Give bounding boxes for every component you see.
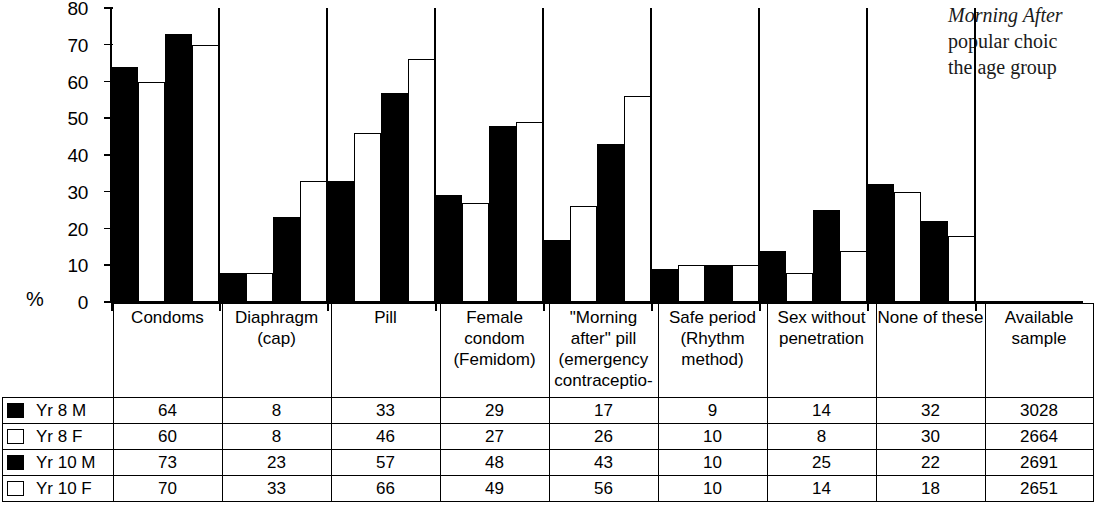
data-cell: 10 [658,424,767,450]
y-tick-label: 60 [22,73,88,92]
bar [597,144,624,302]
category-header-line: None of these [877,307,985,328]
bar [516,122,543,302]
bar [246,273,273,302]
category-header-line: Safe period [659,307,767,328]
data-cell: 27 [440,424,549,450]
table-row: Yr 10 F70336649561014182651 [3,476,1094,502]
legend-label: Yr 8 F [36,427,82,446]
category-header-line: method) [659,349,767,370]
bar [543,240,570,302]
category-header-cell: None of these [876,304,985,398]
bar [273,217,300,302]
data-cell: 43 [549,450,658,476]
legend-cell: Yr 10 F [3,476,114,502]
bar [867,184,894,302]
data-cell: 46 [331,424,440,450]
data-cell: 8 [222,398,331,424]
category-header-line: Sex without [768,307,876,328]
data-cell: 18 [876,476,985,502]
data-cell: 17 [549,398,658,424]
table-row: Yr 8 F608462726108302664 [3,424,1094,450]
data-cell: 23 [222,450,331,476]
bar [813,210,840,302]
bar [732,265,759,302]
y-tick-mark [104,44,113,46]
bar [165,34,192,302]
category-header-cell: "Morningafter" pill(emergencycontracepti… [549,304,658,398]
bar [651,269,678,302]
bar [840,251,867,302]
plot-area [111,8,1083,302]
bar [408,59,435,302]
category-header-line: Condoms [114,307,222,328]
category-header-line: (Femidom) [441,349,549,370]
bar [489,126,516,302]
bar-chart: 80706050403020100 % [0,0,1090,310]
bar [192,45,219,302]
y-tick-label: 70 [22,36,88,55]
available-sample-header-line: Available [986,307,1093,328]
bar [570,206,597,302]
category-header-line: (Rhythm [659,328,767,349]
table-row: Yr 8 M648332917914323028 [3,398,1094,424]
bar [111,67,138,302]
bar [300,181,327,302]
legend-label: Yr 10 F [36,479,92,498]
data-cell: 8 [222,424,331,450]
bar [138,82,165,303]
bar [705,265,732,302]
data-cell: 64 [113,398,222,424]
y-tick-label: 50 [22,109,88,128]
bar [894,192,921,302]
category-header-cell: Diaphragm(cap) [222,304,331,398]
data-cell: 70 [113,476,222,502]
bar [219,273,246,302]
available-sample-header-cell: Availablesample [985,304,1093,398]
data-cell: 10 [658,450,767,476]
data-cell: 66 [331,476,440,502]
table-header-row: CondomsDiaphragm(cap)PillFemalecondom(Fe… [3,304,1094,398]
legend-swatch-icon [7,455,24,470]
data-cell: 32 [876,398,985,424]
y-tick-label: 10 [22,256,88,275]
bar [327,181,354,302]
data-cell: 10 [658,476,767,502]
category-header-line: (emergency [550,349,658,370]
data-cell: 56 [549,476,658,502]
bar [786,273,813,302]
data-cell: 26 [549,424,658,450]
category-header-line: contraceptio- [550,370,658,391]
table-row: Yr 10 M73235748431025222691 [3,450,1094,476]
category-header-line: condom [441,328,549,349]
available-sample-cell: 2651 [985,476,1093,502]
legend-swatch-icon [7,429,24,444]
y-tick-label: 30 [22,183,88,202]
bar [354,133,381,302]
bar [678,265,705,302]
data-cell: 14 [767,476,876,502]
category-header-line: after" pill [550,328,658,349]
category-header-line: Female [441,307,549,328]
data-cell: 25 [767,450,876,476]
bar [759,251,786,302]
data-cell: 73 [113,450,222,476]
category-header-cell: Pill [331,304,440,398]
category-header-line: Diaphragm [223,307,331,328]
available-sample-header-line: sample [986,328,1093,349]
y-tick-label: 80 [22,0,88,18]
legend-swatch-icon [7,403,24,418]
bar [462,203,489,302]
y-tick-label: 40 [22,146,88,165]
data-table: CondomsDiaphragm(cap)PillFemalecondom(Fe… [2,303,1094,502]
table-corner-cell [3,304,114,398]
legend-cell: Yr 8 F [3,424,114,450]
category-header-line: (cap) [223,328,331,349]
data-cell: 29 [440,398,549,424]
bar [381,93,408,302]
category-header-line: "Morning [550,307,658,328]
category-header-cell: Safe period(Rhythmmethod) [658,304,767,398]
data-cell: 22 [876,450,985,476]
legend-label: Yr 10 M [36,453,96,472]
y-tick-mark [104,7,113,9]
